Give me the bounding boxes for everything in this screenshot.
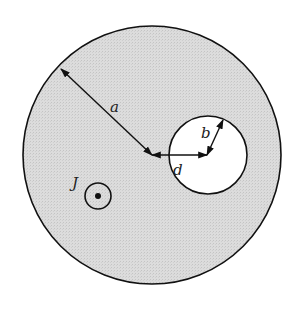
diagram-canvas: a d b J [0, 0, 298, 309]
label-b: b [201, 124, 211, 142]
label-a: a [110, 98, 119, 116]
current-dot-icon [95, 193, 101, 199]
label-d: d [173, 161, 183, 179]
